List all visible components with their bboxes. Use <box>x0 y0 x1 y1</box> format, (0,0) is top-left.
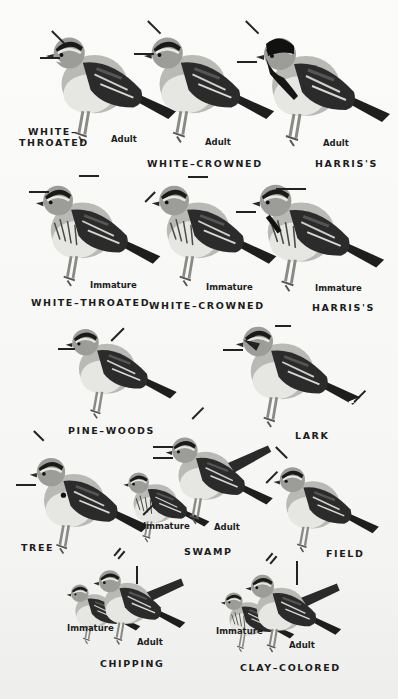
age-label-immature: Immature <box>67 623 114 633</box>
species-label-tree: TREE <box>21 542 54 553</box>
pointer-line <box>276 188 306 190</box>
harris-immature-illustration <box>250 172 388 300</box>
pointer-line <box>188 176 208 178</box>
age-label-immature: Immature <box>216 626 263 636</box>
age-label-adult: Adult <box>111 134 137 144</box>
species-label-harris: HARRIS'S <box>312 302 375 313</box>
pine-woods-illustration <box>64 316 180 428</box>
clay-colored-adult-illustration <box>244 556 344 668</box>
species-label-clay-colored: CLAY–COLORED <box>240 662 341 673</box>
pointer-line <box>275 325 291 327</box>
lark-illustration <box>234 314 364 436</box>
pointer-line <box>134 53 154 55</box>
species-label-white-crowned: WHITE–CROWNED <box>147 158 263 169</box>
age-label-adult: Adult <box>205 137 231 147</box>
age-label-adult: Adult <box>323 138 349 148</box>
pointer-line <box>236 211 256 213</box>
age-label-immature: Immature <box>90 280 137 290</box>
pointer-line <box>153 457 173 459</box>
species-label-chipping: CHIPPING <box>100 658 164 669</box>
species-label-pine-woods: PINE–WOODS <box>68 425 155 436</box>
harris-adult-illustration <box>254 28 394 152</box>
pointer-line <box>136 566 138 584</box>
species-label-harris: HARRIS'S <box>315 158 378 169</box>
field-guide-plate: WHITE– THROATED Adult WHITE–CROWNED Adul… <box>0 0 398 699</box>
age-label-immature: Immature <box>143 521 190 531</box>
age-label-immature: Immature <box>206 282 253 292</box>
pointer-line <box>237 61 257 63</box>
pointer-line <box>79 175 99 177</box>
species-label-white-throated: WHITE–THROATED <box>31 297 150 308</box>
age-label-immature: Immature <box>315 283 362 293</box>
pointer-line <box>153 446 173 448</box>
pointer-line <box>29 191 49 193</box>
pointer-line <box>223 349 243 351</box>
age-label-adult: Adult <box>289 640 315 650</box>
white-throated-immature-illustration <box>34 172 164 296</box>
pointer-line <box>40 57 60 59</box>
pointer-line <box>16 484 36 486</box>
pointer-line <box>296 561 298 585</box>
species-label-white-throated-line2: THROATED <box>19 137 89 148</box>
age-label-adult: Adult <box>137 637 163 647</box>
pointer-line <box>58 348 75 350</box>
species-label-white-crowned: WHITE–CROWNED <box>149 300 265 311</box>
species-label-swamp: SWAMP <box>184 546 233 557</box>
pointer-line <box>191 407 203 419</box>
species-label-white-throated-line1: WHITE– <box>28 126 77 137</box>
species-label-lark: LARK <box>295 430 329 441</box>
swamp-adult-illustration <box>164 424 276 534</box>
age-label-adult: Adult <box>214 522 240 532</box>
